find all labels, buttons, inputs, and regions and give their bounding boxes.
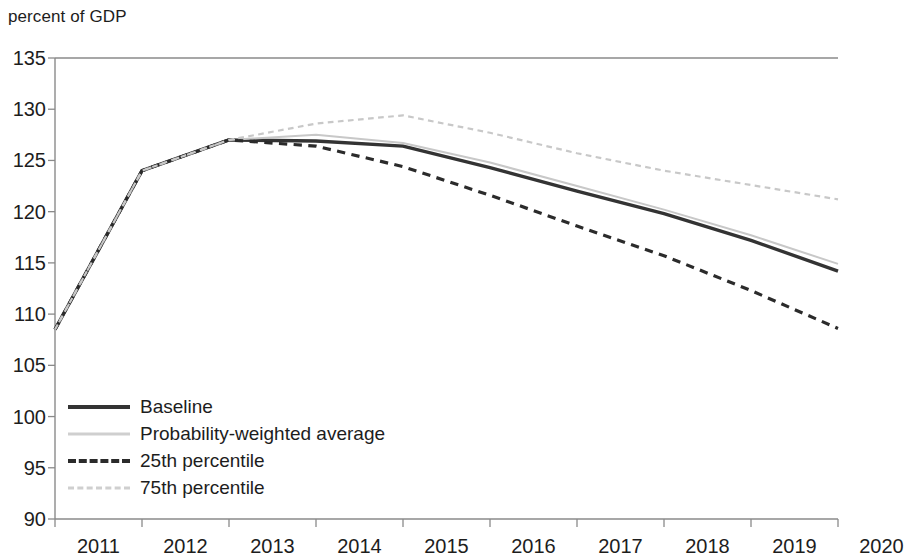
legend-swatch-25th-percentile	[68, 454, 130, 468]
x-axis-tick-label: 2020	[839, 536, 908, 556]
legend-item-25th-percentile: 25th percentile	[68, 447, 385, 474]
legend-label-75th-percentile: 75th percentile	[140, 478, 265, 497]
legend-label-25th-percentile: 25th percentile	[140, 451, 265, 470]
legend-item-probability-weighted-average: Probability-weighted average	[68, 420, 385, 447]
series-line-25th-percentile	[55, 140, 838, 330]
legend-item-baseline: Baseline	[68, 393, 385, 420]
legend-swatch-baseline	[68, 400, 130, 414]
legend-label-baseline: Baseline	[140, 397, 213, 416]
legend-swatch-probability-weighted-average	[68, 427, 130, 441]
legend-item-75th-percentile: 75th percentile	[68, 474, 385, 501]
series-line-baseline	[55, 140, 838, 330]
legend-swatch-75th-percentile	[68, 481, 130, 495]
chart-legend: Baseline Probability-weighted average 25…	[68, 393, 385, 501]
series-line-75th-percentile	[55, 115, 838, 329]
legend-label-probability-weighted-average: Probability-weighted average	[140, 424, 385, 443]
